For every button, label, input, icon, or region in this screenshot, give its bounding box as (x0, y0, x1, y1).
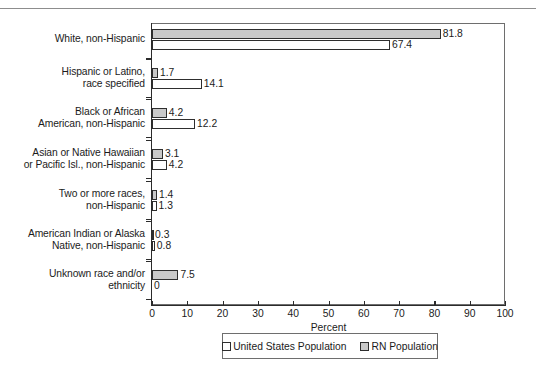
category-label-line: Two or more races, (0, 188, 145, 200)
x-axis-tick-label: 60 (344, 308, 384, 319)
x-axis-tick-label: 20 (203, 308, 243, 319)
y-axis-tick (146, 59, 151, 60)
bar-rn[interactable] (152, 270, 178, 280)
category-label: White, non-Hispanic (0, 33, 145, 45)
bar-value-label: 1.7 (160, 67, 174, 79)
bar-us[interactable] (152, 160, 167, 170)
legend-label: United States Population (233, 341, 346, 352)
category-label: Two or more races,non-Hispanic (0, 188, 145, 211)
category-label: American Indian or AlaskaNative, non-His… (0, 228, 145, 251)
bar-value-label: 4.2 (169, 107, 183, 119)
y-axis-tick (146, 219, 151, 220)
category-label-line: Unknown race and/or (0, 268, 145, 280)
category-label-line: Native, non-Hispanic (0, 240, 145, 252)
bar-value-label: 12.2 (197, 118, 217, 130)
x-axis-tick (399, 301, 400, 306)
bar-rn[interactable] (152, 230, 154, 240)
category-label-line: Hispanic or Latino, (0, 66, 145, 78)
y-axis-tick (146, 259, 151, 260)
bar-us[interactable] (152, 79, 202, 89)
bar-value-label: 1.4 (159, 189, 173, 201)
legend-item-rn-population[interactable]: RN Population (360, 341, 437, 352)
bar-rn[interactable] (152, 29, 441, 39)
category-label-line: race specified (0, 78, 145, 90)
y-axis-tick (146, 261, 151, 262)
y-axis-tick (146, 99, 151, 100)
category-label: Hispanic or Latino,race specified (0, 66, 145, 89)
x-axis-tick (505, 301, 506, 306)
bar-value-label: 81.8 (443, 28, 463, 40)
x-axis-title: Percent (151, 322, 506, 333)
category-label: Asian or Native Hawaiianor Pacific Isl.,… (0, 147, 145, 170)
bar-us[interactable] (152, 201, 157, 211)
bar-value-label: 67.4 (392, 39, 412, 51)
x-axis-tick-label: 30 (238, 308, 278, 319)
x-axis-tick-label: 70 (379, 308, 419, 319)
bar-value-label: 3.1 (165, 148, 179, 160)
bar-value-label: 1.3 (159, 200, 173, 212)
category-label-line: non-Hispanic (0, 200, 145, 212)
category-label-line: American Indian or Alaska (0, 228, 145, 240)
x-axis-tick-label: 80 (414, 308, 454, 319)
category-label-line: or Pacific Isl., non-Hispanic (0, 159, 145, 171)
x-axis-tick-label: 50 (309, 308, 349, 319)
category-label-line: Black or African (0, 106, 145, 118)
legend-label: RN Population (371, 341, 437, 352)
title-strip (0, 0, 536, 9)
bar-rn[interactable] (152, 108, 167, 118)
category-label-line: ethnicity (0, 280, 145, 292)
bar-value-label: 0 (154, 280, 160, 292)
y-axis-tick (146, 140, 151, 141)
y-axis-tick (146, 97, 151, 98)
bar-value-label: 14.1 (204, 78, 224, 90)
x-axis-tick (470, 301, 471, 306)
x-axis-tick (329, 301, 330, 306)
legend: United States Population RN Population (222, 333, 438, 359)
y-axis-tick (146, 178, 151, 179)
y-axis-tick (146, 221, 151, 222)
bar-rn[interactable] (152, 149, 163, 159)
legend-swatch-gray-square-icon (360, 342, 369, 351)
category-label-line: Asian or Native Hawaiian (0, 147, 145, 159)
x-axis-tick-label: 90 (450, 308, 490, 319)
plot-frame (151, 23, 505, 305)
x-axis-tick (364, 301, 365, 306)
bar-us[interactable] (152, 119, 195, 129)
x-axis-tick-label: 0 (132, 308, 172, 319)
x-axis-tick (223, 301, 224, 306)
x-axis-tick (187, 301, 188, 306)
bar-value-label: 7.5 (180, 269, 194, 281)
bar-chart: White, non-Hispanic81.867.4Hispanic or L… (0, 9, 536, 386)
category-label-line: American, non-Hispanic (0, 118, 145, 130)
bar-us[interactable] (152, 40, 390, 50)
legend-item-united-states-population[interactable]: United States Population (222, 341, 346, 352)
y-axis-tick (146, 137, 151, 138)
x-axis-tick (434, 301, 435, 306)
category-label-line: White, non-Hispanic (0, 33, 145, 45)
category-label: Black or AfricanAmerican, non-Hispanic (0, 106, 145, 129)
bar-us[interactable] (152, 241, 155, 251)
bar-value-label: 0.8 (157, 240, 171, 252)
x-axis-tick-label: 100 (485, 308, 525, 319)
x-axis-tick-label: 10 (167, 308, 207, 319)
bar-value-label: 4.2 (169, 159, 183, 171)
x-axis-tick (258, 301, 259, 306)
category-label: Unknown race and/orethnicity (0, 268, 145, 291)
y-axis-tick (146, 181, 151, 182)
bar-rn[interactable] (152, 68, 158, 78)
legend-swatch-white-square-icon (222, 342, 231, 351)
bar-value-label: 0.3 (155, 229, 169, 241)
x-axis-tick-label: 40 (273, 308, 313, 319)
bar-rn[interactable] (152, 190, 157, 200)
y-axis-tick (146, 299, 151, 300)
x-axis-tick (152, 301, 153, 306)
x-axis-tick (293, 301, 294, 306)
